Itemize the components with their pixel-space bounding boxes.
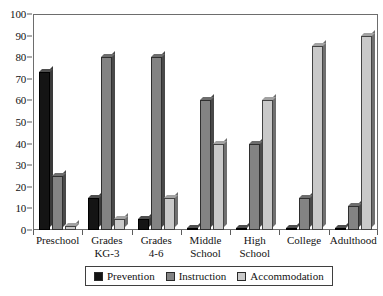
bar-face [236,228,247,230]
y-tick-mark [27,35,32,36]
bar-face [286,228,297,230]
bar-face [299,198,310,230]
bar-side [112,51,115,227]
legend-swatch-instruction-icon [166,272,175,281]
bar-side [224,138,227,227]
bar-face [39,72,50,230]
x-category-label-line: Adulthood [330,234,377,247]
x-category-label-line: School [240,247,271,260]
y-tick-label: 70 [15,73,26,84]
legend-swatch-prevention-icon [94,272,103,281]
y-tick-mark [27,230,32,231]
bar-instruction-6 [348,206,359,230]
legend-label: Instruction [179,271,227,282]
bar-prevention-1 [88,198,99,230]
y-tick-label: 100 [10,9,26,20]
bar-face [101,57,112,230]
y-tick-mark [27,14,32,15]
bar-face [52,176,63,230]
bar-instruction-3 [200,100,211,230]
legend-swatch-accommodation-icon [237,272,246,281]
legend-label: Prevention [107,271,155,282]
bar-accommodation-4 [262,100,273,230]
x-category-label-line: Grades [141,234,172,247]
x-category-label: HighSchool [240,234,271,259]
bar-face [262,100,273,230]
bar-face [312,46,323,230]
y-tick-mark [27,208,32,209]
bar-accommodation-6 [361,36,372,230]
bar-prevention-0 [39,72,50,230]
y-tick-label: 0 [21,225,26,236]
bar-accommodation-5 [312,46,323,230]
chart-legend: PreventionInstructionAccommodation [85,266,333,286]
y-tick-mark [27,57,32,58]
bar-face [361,36,372,230]
x-category-label: Adulthood [330,234,377,247]
bar-chart: 0102030405060708090100 PreschoolGradesKG… [0,0,383,296]
legend-item-prevention[interactable]: Prevention [94,271,155,282]
bar-face [200,100,211,230]
bar-face [114,219,125,230]
x-category-label-line: Middle [190,234,222,247]
x-category-label: MiddleSchool [190,234,222,259]
bar-face [151,57,162,230]
x-category-label: GradesKG-3 [91,234,122,259]
bar-instruction-2 [151,57,162,230]
x-category-label: College [287,234,321,247]
bar-instruction-1 [101,57,112,230]
y-tick-label: 40 [15,138,26,149]
x-axis-labels: PreschoolGradesKG-3Grades4-6MiddleSchool… [33,234,378,264]
legend-item-accommodation[interactable]: Accommodation [237,271,323,282]
bar-face [138,219,149,230]
bars-layer [33,14,378,230]
bar-prevention-3 [187,228,198,230]
x-category-label-line: 4-6 [141,247,172,260]
y-tick-label: 80 [15,52,26,63]
bar-side [372,30,375,227]
bar-accommodation-3 [213,144,224,230]
bar-instruction-4 [249,144,260,230]
x-category-label: Preschool [36,234,79,247]
bar-face [88,198,99,230]
x-category-label-line: Grades [91,234,122,247]
bar-prevention-6 [335,228,346,230]
y-tick-mark [27,122,32,123]
bar-face [348,206,359,230]
y-tick-mark [27,165,32,166]
y-tick-mark [27,78,32,79]
bar-prevention-2 [138,219,149,230]
bar-face [249,144,260,230]
y-tick-label: 60 [15,95,26,106]
y-tick-label: 30 [15,160,26,171]
x-category-label-line: College [287,234,321,247]
bar-accommodation-1 [114,219,125,230]
bar-face [164,198,175,230]
y-tick-label: 10 [15,203,26,214]
y-tick-label: 50 [15,117,26,128]
x-category-label: Grades4-6 [141,234,172,259]
y-tick-mark [27,186,32,187]
x-category-label-line: Preschool [36,234,79,247]
bar-instruction-0 [52,176,63,230]
bar-side [323,40,326,227]
bar-face [187,228,198,230]
bar-side [63,170,66,227]
bar-prevention-4 [236,228,247,230]
bar-instruction-5 [299,198,310,230]
y-tick-label: 20 [15,181,26,192]
x-category-label-line: KG-3 [91,247,122,260]
bar-prevention-5 [286,228,297,230]
legend-item-instruction[interactable]: Instruction [166,271,227,282]
y-tick-label: 90 [15,30,26,41]
legend-label: Accommodation [250,271,323,282]
y-axis: 0102030405060708090100 [0,14,31,230]
bar-accommodation-0 [65,226,76,230]
bar-face [213,144,224,230]
bar-face [335,228,346,230]
x-category-label-line: School [190,247,222,260]
y-tick-mark [27,143,32,144]
y-tick-mark [27,100,32,101]
bar-side [273,94,276,227]
x-category-label-line: High [240,234,271,247]
